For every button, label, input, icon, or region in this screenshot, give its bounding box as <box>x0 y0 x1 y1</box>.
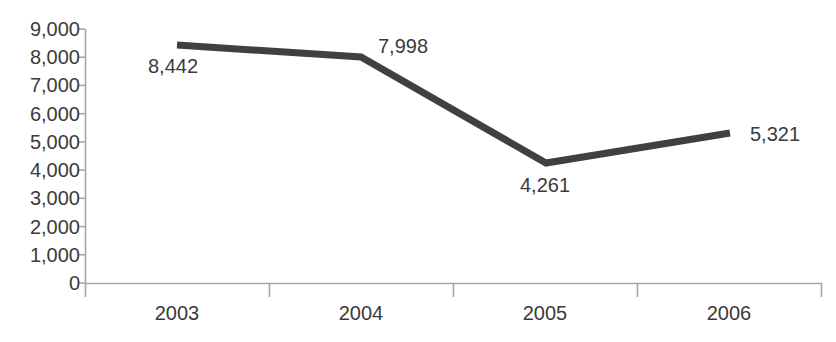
x-axis-tick-label: 2005 <box>453 303 637 323</box>
x-axis-tick-label: 2006 <box>637 303 821 323</box>
y-axis-tick-label: 3,000 <box>4 188 80 208</box>
y-axis-tick-label: 5,000 <box>4 132 80 152</box>
y-axis-tick-label: 0 <box>4 273 80 293</box>
y-axis-tick-label: 4,000 <box>4 160 80 180</box>
y-axis-tick-label: 8,000 <box>4 47 80 67</box>
line-chart: 9,000 8,000 7,000 6,000 5,000 4,000 3,00… <box>0 0 836 342</box>
data-series-line <box>177 45 730 163</box>
y-axis-tick-label: 6,000 <box>4 104 80 124</box>
x-axis-tick-label: 2004 <box>269 303 453 323</box>
y-axis-tick-label: 9,000 <box>4 19 80 39</box>
data-point-label: 4,261 <box>520 175 570 195</box>
data-point-label: 5,321 <box>750 124 800 144</box>
y-axis-tick-label: 7,000 <box>4 75 80 95</box>
data-point-label: 7,998 <box>378 36 428 56</box>
y-axis-tick-label: 2,000 <box>4 217 80 237</box>
y-axis-tick-label: 1,000 <box>4 245 80 265</box>
x-axis-ticks <box>86 284 822 298</box>
data-point-label: 8,442 <box>148 56 198 76</box>
y-axis-tick-labels: 9,000 8,000 7,000 6,000 5,000 4,000 3,00… <box>0 0 80 342</box>
x-axis-tick-label: 2003 <box>85 303 269 323</box>
